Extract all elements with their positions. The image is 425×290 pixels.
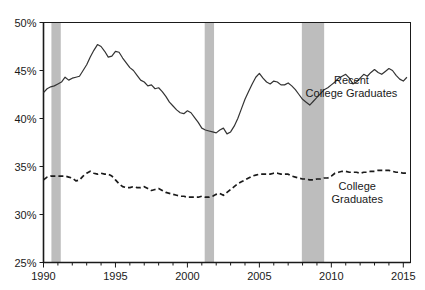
recent-college-graduates-label-line-2: College Graduates [306,87,398,99]
recession-band-3 [302,23,324,263]
y-tick-label: 40% [14,113,36,125]
y-tick-label: 25% [14,257,36,269]
college-graduates-label-line-1: College [339,180,376,192]
recession-band-2 [205,23,214,263]
x-tick-label: 2005 [247,270,271,282]
y-tick-label: 45% [14,65,36,77]
y-tick-label: 30% [14,209,36,221]
recent-college-graduates-label-line-1: Recent [334,74,369,86]
x-tick-label: 1990 [31,270,55,282]
y-tick-label: 50% [14,17,36,29]
x-tick-label: 1995 [103,270,127,282]
college-graduates-label: CollegeGraduates [332,180,384,205]
y-tick-label: 35% [14,161,36,173]
chart-container: 199019952000200520102015 25%30%35%40%45%… [0,0,425,290]
line-chart: 199019952000200520102015 25%30%35%40%45%… [0,0,425,290]
x-tick-label: 2010 [319,270,343,282]
recession-band-1 [51,23,60,263]
x-tick-label: 2000 [175,270,199,282]
x-tick-label: 2015 [391,270,415,282]
college-graduates-label-line-2: Graduates [332,193,384,205]
